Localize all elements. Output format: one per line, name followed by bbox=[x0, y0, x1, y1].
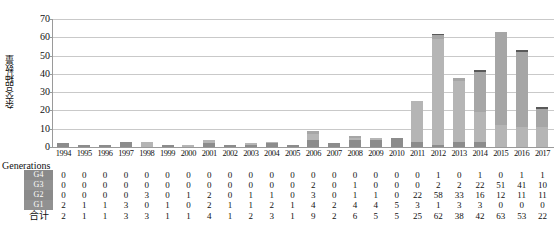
stacked-bar[interactable] bbox=[224, 145, 236, 147]
stacked-bar[interactable] bbox=[203, 140, 215, 147]
bar-column[interactable] bbox=[157, 19, 178, 147]
table-cell: 22 bbox=[407, 190, 428, 200]
bar-segment-g2[interactable] bbox=[474, 112, 486, 141]
stacked-bar[interactable] bbox=[162, 145, 174, 147]
bar-column[interactable] bbox=[53, 19, 74, 147]
bar-column[interactable] bbox=[511, 19, 532, 147]
stacked-bar[interactable] bbox=[411, 101, 423, 147]
table-cell: 0 bbox=[240, 180, 261, 190]
legend-column: G4G3G2G1合计 bbox=[24, 170, 53, 222]
bar-segment-g2[interactable] bbox=[536, 127, 548, 147]
bar-column[interactable] bbox=[240, 19, 261, 147]
bar-column[interactable] bbox=[303, 19, 324, 147]
stacked-bar[interactable] bbox=[474, 70, 486, 147]
bar-column[interactable] bbox=[115, 19, 136, 147]
bar-segment-g1[interactable] bbox=[474, 142, 486, 147]
stacked-bar[interactable] bbox=[78, 145, 90, 147]
bar-segment-g2[interactable] bbox=[516, 127, 528, 147]
x-tick-label: 1999 bbox=[157, 148, 178, 160]
y-tick-label: 0 bbox=[28, 142, 50, 152]
bar-segment-g2[interactable] bbox=[182, 145, 194, 147]
bar-column[interactable] bbox=[199, 19, 220, 147]
bar-column[interactable] bbox=[282, 19, 303, 147]
stacked-bar[interactable] bbox=[287, 145, 299, 147]
stacked-bar[interactable] bbox=[432, 34, 444, 147]
table-cell: 1 bbox=[240, 190, 261, 200]
bar-segment-g2[interactable] bbox=[432, 39, 444, 145]
bar-column[interactable] bbox=[345, 19, 366, 147]
bar-segment-g2[interactable] bbox=[453, 81, 465, 141]
stacked-bar[interactable] bbox=[57, 143, 69, 147]
bar-column[interactable] bbox=[136, 19, 157, 147]
stacked-bar[interactable] bbox=[182, 145, 194, 147]
stacked-bar[interactable] bbox=[120, 142, 132, 147]
bar-segment-g1[interactable] bbox=[224, 145, 236, 147]
bar-segment-g1[interactable] bbox=[370, 140, 382, 147]
bar-segment-g3[interactable] bbox=[495, 32, 507, 125]
bar-segment-g1[interactable] bbox=[99, 145, 111, 147]
bar-segment-g2[interactable] bbox=[141, 142, 153, 147]
bar-segment-g1[interactable] bbox=[162, 145, 174, 147]
stacked-bar[interactable] bbox=[141, 142, 153, 147]
stacked-bar[interactable] bbox=[266, 142, 278, 147]
stacked-bar[interactable] bbox=[370, 138, 382, 147]
stacked-bar[interactable] bbox=[328, 143, 340, 147]
table-row: 0000301201103011022583316121111 bbox=[53, 190, 553, 200]
stacked-bar[interactable] bbox=[307, 131, 319, 147]
bar-segment-g1[interactable] bbox=[120, 142, 132, 147]
bar-segment-g1[interactable] bbox=[391, 138, 403, 147]
bar-column[interactable] bbox=[470, 19, 491, 147]
bar-segment-g1[interactable] bbox=[349, 140, 361, 147]
stacked-bar[interactable] bbox=[495, 32, 507, 147]
bar-segment-g3[interactable] bbox=[516, 52, 528, 127]
bar-segment-g1[interactable] bbox=[57, 143, 69, 147]
bar-column[interactable] bbox=[407, 19, 428, 147]
bar-segment-g2[interactable] bbox=[495, 125, 507, 147]
bar-segment-g1[interactable] bbox=[328, 143, 340, 147]
legend-swatch-g2[interactable]: G2 bbox=[24, 190, 53, 200]
stacked-bar[interactable] bbox=[349, 136, 361, 147]
bar-column[interactable] bbox=[428, 19, 449, 147]
bar-column[interactable] bbox=[532, 19, 553, 147]
bar-column[interactable] bbox=[449, 19, 470, 147]
stacked-bar[interactable] bbox=[516, 50, 528, 147]
bar-segment-g1[interactable] bbox=[432, 145, 444, 147]
table-cell-total: 2 bbox=[53, 210, 74, 222]
legend-swatch-g4[interactable]: G4 bbox=[24, 170, 53, 180]
stacked-bar[interactable] bbox=[391, 138, 403, 147]
stacked-bar[interactable] bbox=[245, 143, 257, 147]
bar-segment-g3[interactable] bbox=[536, 109, 548, 127]
legend-swatch-g3[interactable]: G3 bbox=[24, 180, 53, 190]
bar-column[interactable] bbox=[261, 19, 282, 147]
table-cell: 2 bbox=[324, 200, 345, 210]
stacked-bar[interactable] bbox=[536, 107, 548, 147]
bar-column[interactable] bbox=[74, 19, 95, 147]
bar-segment-g1[interactable] bbox=[287, 145, 299, 147]
bar-column[interactable] bbox=[324, 19, 345, 147]
bar-segment-g1[interactable] bbox=[245, 145, 257, 147]
legend-swatch-g1[interactable]: G1 bbox=[24, 200, 53, 210]
table-cell: 1 bbox=[428, 200, 449, 210]
bar-segment-g1[interactable] bbox=[266, 143, 278, 147]
bar-segment-g3[interactable] bbox=[474, 72, 486, 112]
bar-column[interactable] bbox=[95, 19, 116, 147]
bar-column[interactable] bbox=[220, 19, 241, 147]
bar-segment-g1[interactable] bbox=[78, 145, 90, 147]
table-cell: 0 bbox=[95, 170, 116, 180]
bar-column[interactable] bbox=[178, 19, 199, 147]
table-cell: 0 bbox=[74, 170, 95, 180]
bar-segment-g1[interactable] bbox=[453, 142, 465, 147]
bar-segment-g1[interactable] bbox=[307, 140, 319, 147]
bar-column[interactable] bbox=[365, 19, 386, 147]
table-cell: 3 bbox=[303, 190, 324, 200]
bar-segment-g1[interactable] bbox=[203, 143, 215, 147]
bar-segment-g2[interactable] bbox=[411, 101, 423, 141]
table-cell: 0 bbox=[386, 170, 407, 180]
table-cell-total: 1 bbox=[95, 210, 116, 222]
x-tick-label: 2017 bbox=[532, 148, 553, 160]
bar-column[interactable] bbox=[490, 19, 511, 147]
stacked-bar[interactable] bbox=[99, 145, 111, 147]
bar-segment-g1[interactable] bbox=[411, 142, 423, 147]
bar-column[interactable] bbox=[386, 19, 407, 147]
stacked-bar[interactable] bbox=[453, 78, 465, 147]
